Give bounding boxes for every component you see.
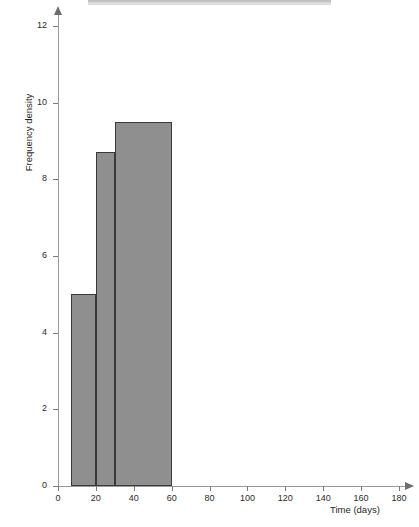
y-axis-tick-label: 4 — [7, 328, 47, 337]
y-axis-tick — [53, 409, 58, 410]
x-axis-tick — [134, 486, 135, 491]
y-axis-line — [58, 14, 59, 486]
y-axis-tick-label: 6 — [7, 251, 47, 260]
x-axis-tick-label: 20 — [76, 493, 116, 503]
x-axis-tick-label: 180 — [379, 493, 419, 503]
histogram-chart: 024681012 020406080100120140160180 Frequ… — [0, 0, 419, 527]
x-axis-tick — [210, 486, 211, 491]
histogram-bar — [71, 294, 96, 486]
x-axis-tick-label: 120 — [265, 493, 305, 503]
x-axis-line — [58, 486, 407, 487]
y-axis-tick — [53, 103, 58, 104]
x-axis-arrowhead — [405, 482, 414, 490]
x-axis-tick-label: 160 — [341, 493, 381, 503]
y-axis-tick — [53, 333, 58, 334]
x-axis-tick-label: 100 — [227, 493, 267, 503]
y-axis-title: Frequency density — [23, 63, 34, 203]
x-axis-title: Time (days) — [330, 504, 380, 515]
x-axis-tick-label: 60 — [152, 493, 192, 503]
y-axis-tick-label: 12 — [7, 21, 47, 30]
x-axis-tick — [247, 486, 248, 491]
x-axis-tick — [285, 486, 286, 491]
y-axis-tick-label: 2 — [7, 404, 47, 413]
histogram-bar — [115, 122, 172, 486]
y-axis-tick — [53, 26, 58, 27]
x-axis-tick — [361, 486, 362, 491]
y-axis-arrowhead — [54, 6, 62, 15]
y-axis-tick — [53, 256, 58, 257]
x-axis-tick — [58, 486, 59, 491]
x-axis-tick-label: 0 — [38, 493, 78, 503]
x-axis-tick-label: 40 — [114, 493, 154, 503]
histogram-bar — [96, 152, 115, 486]
x-axis-tick — [172, 486, 173, 491]
x-axis-tick-label: 140 — [303, 493, 343, 503]
y-axis-tick-label: 0 — [7, 481, 47, 490]
y-axis-tick — [53, 179, 58, 180]
x-axis-tick — [323, 486, 324, 491]
x-axis-tick — [399, 486, 400, 491]
x-axis-tick-label: 80 — [190, 493, 230, 503]
cut-off-caption — [18, 517, 218, 527]
x-axis-tick — [96, 486, 97, 491]
